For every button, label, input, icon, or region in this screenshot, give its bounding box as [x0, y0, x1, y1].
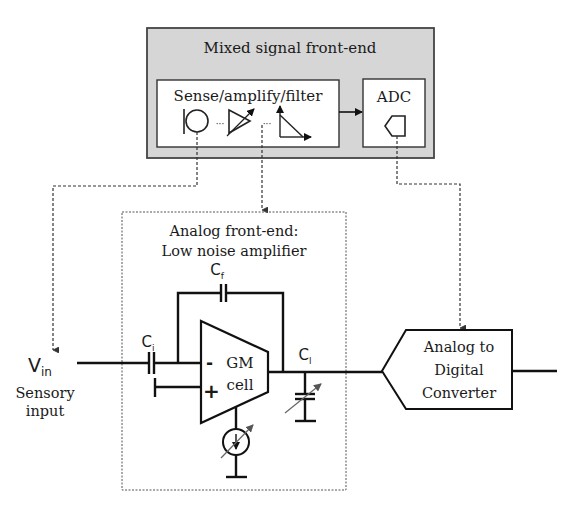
plus-sign: +	[203, 379, 220, 403]
noninverting-input	[155, 378, 201, 397]
gm-label: GM	[226, 354, 253, 372]
adc-to-converter-connector	[397, 136, 460, 328]
bias-current-source	[221, 407, 253, 477]
ci-label: Ci	[142, 333, 155, 353]
sensory-label: Sensory	[15, 385, 75, 401]
load-capacitor	[285, 372, 321, 421]
cell-label: cell	[227, 376, 254, 394]
lna-title-line2: Low noise amplifier	[162, 243, 307, 259]
adc-block-label: ADC	[376, 88, 411, 106]
input-label: input	[26, 403, 65, 419]
variable-arrow-icon	[285, 384, 321, 413]
cf-label: Cf	[210, 261, 224, 281]
sense-block-label: Sense/amplify/filter	[174, 87, 324, 105]
ellipsis-1: ···	[216, 119, 225, 129]
lna-block: Analog front-end: Low noise amplifier Cf…	[77, 212, 382, 490]
sensor-to-input-connector	[53, 132, 197, 350]
diagram-canvas: Mixed signal front-end Sense/amplify/fil…	[0, 0, 588, 518]
sense-amplify-filter-block: Sense/amplify/filter ··· ···	[157, 80, 339, 147]
vin-label: Vin	[28, 354, 52, 379]
cl-label: Cl	[299, 346, 312, 366]
mixed-signal-panel: Mixed signal front-end Sense/amplify/fil…	[147, 28, 434, 158]
converter-line2: Digital	[434, 362, 484, 378]
gm-cell: - + GM cell	[201, 321, 268, 423]
analog-to-digital-converter: Analog to Digital Converter	[382, 330, 557, 409]
converter-line3: Converter	[422, 385, 496, 401]
adc-block: ADC	[363, 79, 425, 147]
converter-line1: Analog to	[423, 339, 494, 355]
minus-sign: -	[206, 353, 213, 373]
ellipsis-2: ···	[263, 119, 272, 129]
lna-title-line1: Analog front-end:	[169, 223, 299, 239]
input-capacitor	[77, 352, 201, 374]
mixed-signal-title: Mixed signal front-end	[204, 39, 377, 57]
